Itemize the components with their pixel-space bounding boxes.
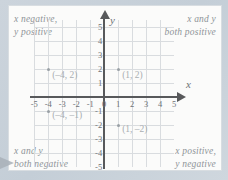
y-tick-label: 1 [92, 78, 102, 88]
y-tick-label: -5 [92, 162, 102, 172]
coordinate-plane-figure: x negative, y positive x and y both posi… [0, 0, 228, 180]
y-axis [103, 17, 105, 169]
x-tick-label: 1 [111, 99, 125, 109]
x-axis-label: x [186, 78, 191, 90]
x-tick-label: 3 [139, 99, 153, 109]
corner-triangle-icon [0, 157, 14, 169]
point-neg4-neg1 [47, 110, 50, 113]
point-neg4-neg1-label: (–4, –1) [52, 110, 82, 120]
y-tick-label: 3 [92, 50, 102, 60]
y-tick-label: -2 [92, 120, 102, 130]
x-tick-label: 2 [125, 99, 139, 109]
x-tick-label: -2 [69, 99, 83, 109]
graph-canvas: x y -5-4-3-2-101234554321-1-2-3-4-5 (–4,… [0, 0, 228, 180]
y-axis-arrow-icon [100, 10, 110, 19]
point-neg4-2-label: (–4, 2) [52, 70, 77, 80]
y-tick-label: 5 [92, 22, 102, 32]
point-1-2 [117, 68, 120, 71]
point-1-neg2 [117, 124, 120, 127]
y-tick-label: -4 [92, 148, 102, 158]
x-tick-label: 4 [153, 99, 167, 109]
y-tick-label: 4 [92, 36, 102, 46]
point-1-neg2-label: (1, –2) [122, 124, 147, 134]
y-tick-label: -1 [92, 106, 102, 116]
point-1-2-label: (1, 2) [122, 70, 143, 80]
x-tick-label: -3 [55, 99, 69, 109]
point-neg4-2 [47, 68, 50, 71]
y-tick-label: 2 [92, 64, 102, 74]
y-axis-label: y [110, 14, 115, 26]
y-tick-label: -3 [92, 134, 102, 144]
x-tick-label: 5 [167, 99, 181, 109]
x-tick-label: -4 [41, 99, 55, 109]
x-tick-label: -5 [27, 99, 41, 109]
